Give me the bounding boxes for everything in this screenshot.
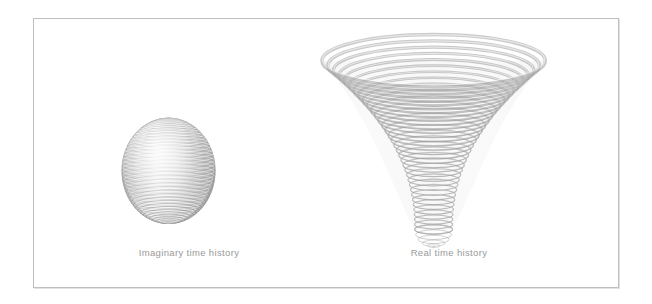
figure-frame: Imaginary time history Real time history: [33, 18, 619, 288]
real-time-funnel: [322, 35, 545, 248]
caption-real-time: Real time history: [334, 247, 564, 258]
imaginary-time-sphere: [122, 117, 216, 225]
caption-imaginary-time: Imaginary time history: [74, 247, 304, 258]
figure-root: Imaginary time history Real time history: [0, 0, 652, 304]
